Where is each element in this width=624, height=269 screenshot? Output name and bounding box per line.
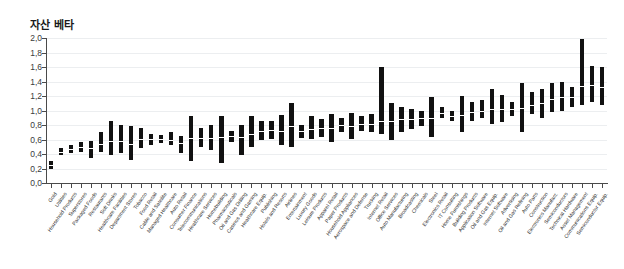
x-tick-mark xyxy=(321,184,322,188)
range-bar xyxy=(470,102,474,121)
range-bar xyxy=(89,141,93,158)
x-tick-mark xyxy=(261,184,262,188)
median-marker xyxy=(219,137,223,138)
y-tick-label: 0,4 xyxy=(30,149,42,159)
x-tick-mark xyxy=(372,184,373,188)
range-bar xyxy=(59,148,63,155)
x-tick-mark xyxy=(382,184,383,188)
x-tick-mark xyxy=(71,184,72,188)
x-tick-mark xyxy=(181,184,182,188)
median-marker xyxy=(299,131,303,132)
range-bar xyxy=(69,145,73,152)
range-bar xyxy=(429,97,433,136)
x-tick-mark xyxy=(311,184,312,188)
median-marker xyxy=(590,85,594,86)
x-tick-mark xyxy=(462,184,463,188)
median-marker xyxy=(99,144,103,145)
median-marker xyxy=(289,126,293,127)
median-marker xyxy=(79,147,83,148)
median-marker xyxy=(399,119,403,120)
median-marker xyxy=(49,165,53,166)
x-tick-mark xyxy=(542,184,543,188)
range-bar xyxy=(540,89,544,118)
median-marker xyxy=(389,121,393,122)
x-tick-mark xyxy=(51,184,52,188)
y-tick-label: 1,6 xyxy=(30,62,42,72)
x-tick-mark xyxy=(291,184,292,188)
x-tick-mark xyxy=(562,184,563,188)
x-tick-mark xyxy=(221,184,222,188)
x-tick-mark xyxy=(241,184,242,188)
grid-line xyxy=(46,169,607,170)
range-bar xyxy=(159,135,163,143)
range-bar xyxy=(379,67,383,134)
x-tick-mark xyxy=(482,184,483,188)
median-marker xyxy=(460,115,464,116)
x-tick-mark xyxy=(161,184,162,188)
median-marker xyxy=(249,134,253,135)
x-tick-mark xyxy=(532,184,533,188)
y-tick-label: 1,0 xyxy=(30,106,42,116)
x-tick-mark xyxy=(342,184,343,188)
x-tick-mark xyxy=(332,184,333,188)
range-bar xyxy=(490,89,494,124)
median-marker xyxy=(319,128,323,129)
range-bar xyxy=(369,114,373,132)
median-marker xyxy=(169,140,173,141)
x-tick-mark xyxy=(81,184,82,188)
x-tick-mark xyxy=(131,184,132,188)
median-marker xyxy=(159,139,163,140)
y-tick-label: 1,8 xyxy=(30,48,42,58)
x-tick-mark xyxy=(91,184,92,188)
median-marker xyxy=(259,131,263,132)
range-bar xyxy=(109,121,113,155)
median-marker xyxy=(189,138,193,139)
x-tick-mark xyxy=(552,184,553,188)
median-marker xyxy=(560,97,564,98)
median-marker xyxy=(279,131,283,132)
median-marker xyxy=(129,144,133,145)
range-bar xyxy=(480,100,484,118)
range-bar xyxy=(460,96,464,132)
plot-area xyxy=(46,38,607,183)
grid-line xyxy=(46,53,607,54)
y-axis-line xyxy=(46,38,47,184)
range-bar xyxy=(119,125,123,153)
x-tick-mark xyxy=(301,184,302,188)
x-tick-mark xyxy=(502,184,503,188)
range-bar xyxy=(229,131,233,142)
range-bar xyxy=(520,83,524,132)
x-tick-mark xyxy=(472,184,473,188)
median-marker xyxy=(309,129,313,130)
range-bar xyxy=(510,102,514,117)
range-bar xyxy=(450,111,454,122)
median-marker xyxy=(199,138,203,139)
median-marker xyxy=(500,109,504,110)
median-marker xyxy=(109,141,113,142)
range-bar xyxy=(169,132,173,144)
range-bar xyxy=(349,113,353,139)
range-bar xyxy=(309,116,313,139)
median-marker xyxy=(570,97,574,98)
median-marker xyxy=(149,139,153,140)
x-tick-mark xyxy=(412,184,413,188)
median-marker xyxy=(229,136,233,137)
x-tick-mark xyxy=(512,184,513,188)
range-bar xyxy=(399,107,403,132)
y-tick-label: 0,6 xyxy=(30,135,42,145)
median-marker xyxy=(470,112,474,113)
median-marker xyxy=(429,118,433,119)
median-marker xyxy=(530,105,534,106)
x-tick-mark xyxy=(432,184,433,188)
range-bar xyxy=(209,125,213,150)
x-tick-mark xyxy=(211,184,212,188)
median-marker xyxy=(369,124,373,125)
median-marker xyxy=(339,125,343,126)
y-tick-label: 2,0 xyxy=(30,33,42,43)
range-bar xyxy=(269,121,273,140)
range-bar xyxy=(79,142,83,151)
x-tick-mark xyxy=(61,184,62,188)
x-tick-mark xyxy=(402,184,403,188)
median-marker xyxy=(409,119,413,120)
median-marker xyxy=(419,118,423,119)
